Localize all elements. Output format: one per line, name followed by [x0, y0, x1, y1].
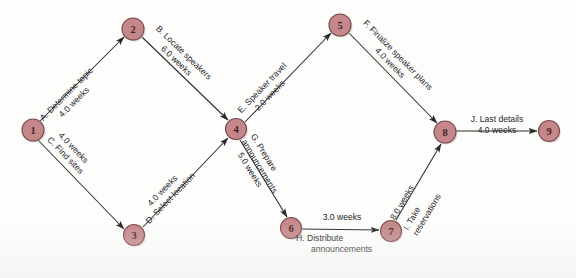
edge-E-4-5	[245, 33, 331, 122]
edge-D-3-4	[143, 138, 228, 227]
edge-C-1-3	[38, 140, 124, 229]
node-9[interactable]: 9	[539, 121, 562, 144]
node-7[interactable]: 7	[381, 221, 404, 244]
node-4[interactable]: 4	[226, 119, 249, 142]
network-diagram: 1 2 3 4 5	[0, 0, 576, 278]
node-1[interactable]: 1	[22, 119, 46, 143]
edge-I-7-8	[396, 144, 441, 220]
network-svg: 1 2 3 4 5	[0, 0, 576, 278]
node-2[interactable]: 2	[122, 18, 146, 42]
edge-A-1-2	[40, 37, 124, 121]
edge-F-5-8	[349, 33, 437, 123]
edge-H-6-7	[302, 229, 379, 230]
edge-B-2-4	[142, 37, 228, 120]
node-6[interactable]: 6	[281, 218, 304, 241]
node-5[interactable]: 5	[329, 14, 353, 38]
edge-G-4-6	[240, 140, 287, 217]
node-8[interactable]: 8	[434, 121, 458, 145]
edges-group	[38, 33, 537, 230]
node-3[interactable]: 3	[124, 225, 147, 248]
